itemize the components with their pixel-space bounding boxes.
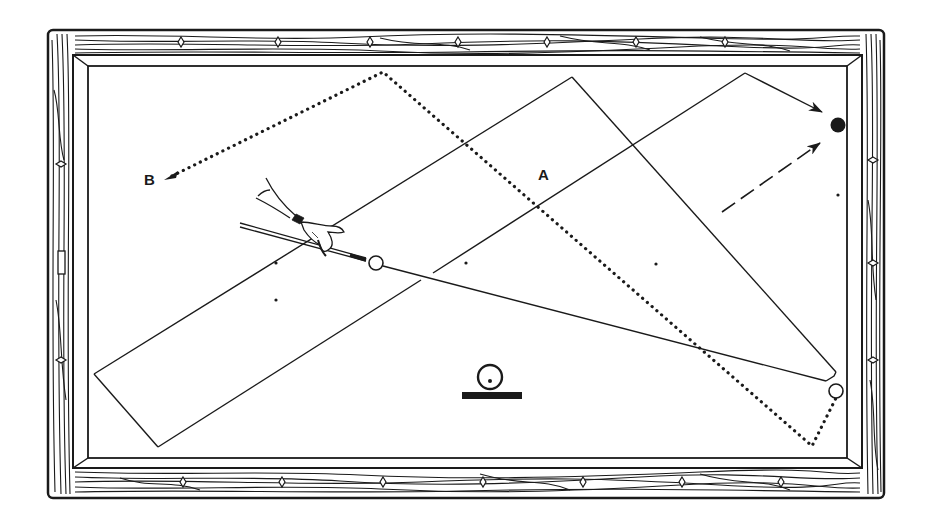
path-b-label: B [144, 171, 155, 188]
target-ball [831, 118, 846, 133]
path-a-label: A [538, 166, 549, 183]
rail-notch [58, 251, 65, 274]
table-drawing [0, 0, 929, 522]
object-ball [829, 384, 843, 398]
cue-ball [369, 256, 383, 270]
billiards-diagram: B A [0, 0, 929, 522]
